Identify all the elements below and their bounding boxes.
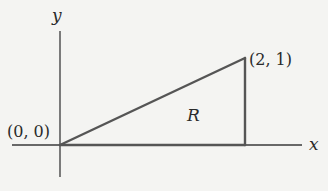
region-r-boundary [60, 58, 245, 145]
y-axis-label: y [51, 5, 62, 25]
region-label: R [186, 105, 200, 125]
region-diagram: y x (0, 0) (2, 1) R [0, 0, 328, 191]
hypotenuse-edge [60, 58, 245, 145]
x-axis-label: x [309, 134, 319, 154]
vertex-label: (2, 1) [249, 50, 292, 69]
origin-label: (0, 0) [7, 122, 50, 141]
